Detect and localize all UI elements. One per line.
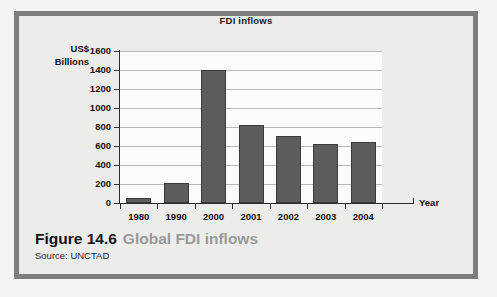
y-tick-label-holder-200: 200 — [67, 179, 111, 189]
x-tick-mark-2000 — [195, 203, 196, 209]
gridline-1000 — [120, 108, 382, 109]
x-axis-line — [119, 203, 414, 204]
bar-2004 — [351, 142, 376, 203]
y-tick-mark-800 — [114, 127, 119, 128]
y-tick-label-holder-600: 600 — [67, 141, 111, 151]
x-tick-label-2000: 2000 — [194, 211, 234, 222]
bar-2003 — [313, 144, 338, 203]
y-tick-mark-400 — [114, 165, 119, 166]
y-tick-mark-1400 — [114, 70, 119, 71]
y-tick-label-holder-1400: 1400 — [67, 65, 111, 75]
y-tick-mark-1000 — [114, 108, 119, 109]
figure-frame: FDI inflows US$ Billions 020040060080010… — [14, 11, 478, 279]
y-tick-label-1200: 1200 — [69, 84, 111, 94]
x-tick-mark-2002 — [270, 203, 271, 209]
y-tick-label-1000: 1000 — [69, 103, 111, 113]
y-axis-line — [119, 50, 120, 204]
gridline-1400 — [120, 70, 382, 71]
bar-1990 — [164, 183, 189, 203]
plot-area — [120, 51, 382, 203]
y-tick-label-holder-1000: 1000 — [67, 103, 111, 113]
x-tick-label-2003: 2003 — [306, 211, 346, 222]
x-axis-end-cap — [413, 198, 414, 204]
gridline-1200 — [120, 89, 382, 90]
y-tick-label-1600: 1600 — [69, 46, 111, 56]
y-tick-mark-1600 — [114, 51, 119, 52]
figure-panel: FDI inflows US$ Billions 020040060080010… — [19, 16, 473, 274]
y-tick-label-holder-1200: 1200 — [67, 84, 111, 94]
x-tick-label-2002: 2002 — [268, 211, 308, 222]
bar-2002 — [276, 136, 301, 203]
caption-figure-title: Global FDI inflows — [123, 230, 258, 247]
y-tick-label-0: 0 — [69, 198, 111, 208]
page-background: FDI inflows US$ Billions 020040060080010… — [0, 0, 497, 297]
caption-source: Source: UNCTAD — [35, 249, 465, 262]
y-tick-label-400: 400 — [69, 160, 111, 170]
y-tick-label-holder-1600: 1600 — [67, 46, 111, 56]
x-axis-title: Year — [419, 197, 439, 208]
y-tick-mark-600 — [114, 146, 119, 147]
x-tick-mark-end — [382, 203, 383, 209]
y-tick-mark-200 — [114, 184, 119, 185]
y-tick-label-200: 200 — [69, 179, 111, 189]
x-tick-mark-2001 — [232, 203, 233, 209]
x-tick-mark-2003 — [307, 203, 308, 209]
y-tick-label-1400: 1400 — [69, 65, 111, 75]
x-tick-label-1990: 1990 — [156, 211, 196, 222]
y-tick-label-holder-800: 800 — [67, 122, 111, 132]
caption-figure-number: Figure 14.6 — [35, 230, 117, 247]
caption-line: Figure 14.6Global FDI inflows — [35, 229, 465, 248]
y-tick-mark-1200 — [114, 89, 119, 90]
bar-2001 — [239, 125, 264, 203]
figure-caption: Figure 14.6Global FDI inflows Source: UN… — [35, 229, 465, 262]
y-tick-label-holder-400: 400 — [67, 160, 111, 170]
bar-2000 — [201, 70, 226, 203]
gridline-1600 — [120, 51, 382, 52]
x-tick-mark-2004 — [345, 203, 346, 209]
x-tick-mark-1980 — [120, 203, 121, 209]
x-tick-label-2001: 2001 — [231, 211, 271, 222]
x-tick-label-1980: 1980 — [119, 211, 159, 222]
x-tick-label-2004: 2004 — [343, 211, 383, 222]
x-tick-mark-1990 — [157, 203, 158, 209]
y-tick-mark-0 — [114, 203, 119, 204]
y-tick-label-holder-0: 0 — [67, 198, 111, 208]
y-tick-label-600: 600 — [69, 141, 111, 151]
y-tick-label-800: 800 — [69, 122, 111, 132]
